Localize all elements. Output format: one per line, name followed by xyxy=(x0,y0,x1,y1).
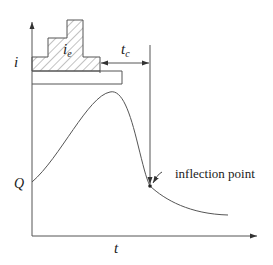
ie-subscript: e xyxy=(67,48,72,59)
tc-subscript: c xyxy=(125,48,130,59)
inflection-point-marker xyxy=(148,184,152,188)
hydrograph-diagram: i Q t ie tc inflection point xyxy=(0,0,273,265)
y-axis-label-i: i xyxy=(14,54,18,70)
y-axis-label-q: Q xyxy=(14,176,24,191)
inflection-point-label: inflection point xyxy=(175,166,255,181)
rainfall-loss-box xyxy=(32,71,122,84)
x-axis-label-t: t xyxy=(114,240,119,256)
tc-label: tc xyxy=(121,41,130,59)
inflection-pointer xyxy=(153,172,162,183)
hydrograph-curve xyxy=(32,92,228,215)
